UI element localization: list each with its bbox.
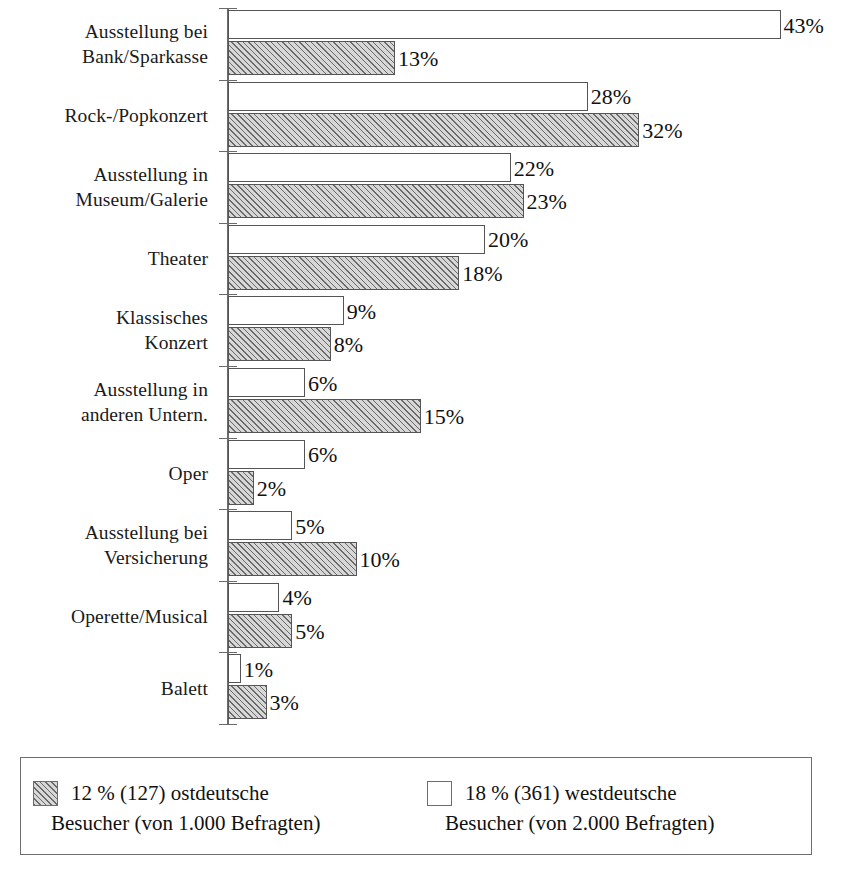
bar-value-label: 18%	[462, 263, 502, 285]
category-label-line: Ausstellung in	[0, 162, 208, 187]
bar-value-label: 32%	[642, 120, 682, 142]
category-row: Ausstellung beiBank/Sparkasse43%13%	[0, 8, 842, 80]
category-label-line: Operette/Musical	[0, 604, 208, 629]
bar-value-label: 23%	[527, 191, 567, 213]
bar-west-1: 43%	[228, 10, 781, 39]
legend-label-line1: 12 % (127) ostdeutsche	[71, 778, 269, 808]
bar-value-label: 13%	[398, 48, 438, 70]
bar-west-4: 20%	[228, 225, 485, 254]
bar-value-label: 9%	[347, 301, 376, 323]
bar-value-label: 10%	[360, 549, 400, 571]
bar-east-8: 10%	[228, 542, 357, 576]
bar-east-5: 8%	[228, 327, 331, 361]
bar-value-label: 8%	[334, 334, 363, 356]
category-row: Ausstellung inMuseum/Galerie22%23%	[0, 151, 842, 223]
white-swatch	[427, 781, 452, 806]
category-label-7: Oper	[0, 461, 208, 486]
category-row: Ausstellung inanderen Untern.6%15%	[0, 366, 842, 438]
bar-east-7: 2%	[228, 471, 254, 505]
axis-tick	[219, 724, 237, 725]
category-label-8: Ausstellung beiVersicherung	[0, 520, 208, 570]
category-label-line: Versicherung	[0, 545, 208, 570]
chart-page: Ausstellung beiBank/Sparkasse43%13%Rock-…	[0, 0, 842, 884]
category-label-10: Balett	[0, 676, 208, 701]
category-label-line: Ausstellung bei	[0, 520, 208, 545]
bar-west-9: 4%	[228, 583, 279, 612]
bar-value-label: 2%	[257, 478, 286, 500]
bar-west-3: 22%	[228, 153, 511, 182]
bar-value-label: 15%	[424, 406, 464, 428]
category-label-line: Konzert	[0, 330, 208, 355]
category-label-line: Theater	[0, 246, 208, 271]
bar-east-2: 32%	[228, 113, 639, 147]
bar-value-label: 28%	[591, 86, 631, 108]
bar-west-6: 6%	[228, 368, 305, 397]
category-label-9: Operette/Musical	[0, 604, 208, 629]
bar-east-4: 18%	[228, 256, 459, 290]
category-label-line: Ausstellung bei	[0, 19, 208, 44]
category-row: KlassischesKonzert9%8%	[0, 294, 842, 366]
category-row: Theater20%18%	[0, 223, 842, 295]
category-row: Operette/Musical4%5%	[0, 581, 842, 653]
bar-east-1: 13%	[228, 41, 395, 75]
bar-value-label: 22%	[514, 158, 554, 180]
legend-label-line1: 18 % (361) westdeutsche	[465, 778, 677, 808]
bar-east-6: 15%	[228, 399, 421, 433]
bar-value-label: 5%	[295, 516, 324, 538]
legend-label-line2: Besucher (von 2.000 Befragten)	[445, 808, 714, 838]
category-label-line: Ausstellung in	[0, 377, 208, 402]
bar-east-10: 3%	[228, 685, 267, 719]
category-label-6: Ausstellung inanderen Untern.	[0, 377, 208, 427]
bar-value-label: 3%	[270, 692, 299, 714]
category-row: Oper6%2%	[0, 438, 842, 510]
category-label-line: Balett	[0, 676, 208, 701]
category-label-5: KlassischesKonzert	[0, 305, 208, 355]
category-label-line: Museum/Galerie	[0, 187, 208, 212]
category-label-3: Ausstellung inMuseum/Galerie	[0, 162, 208, 212]
bar-east-9: 5%	[228, 614, 292, 648]
bar-west-10: 1%	[228, 654, 241, 683]
category-label-line: Bank/Sparkasse	[0, 44, 208, 69]
category-label-4: Theater	[0, 246, 208, 271]
bar-west-2: 28%	[228, 82, 588, 111]
bar-value-label: 43%	[784, 15, 824, 37]
category-label-2: Rock-/Popkonzert	[0, 103, 208, 128]
bar-east-3: 23%	[228, 184, 524, 218]
bar-value-label: 5%	[295, 621, 324, 643]
bar-value-label: 6%	[308, 444, 337, 466]
bar-value-label: 6%	[308, 373, 337, 395]
legend-label-line2: Besucher (von 1.000 Befragten)	[51, 808, 320, 838]
bar-value-label: 4%	[282, 587, 311, 609]
category-row: Balett1%3%	[0, 652, 842, 724]
bar-west-7: 6%	[228, 440, 305, 469]
category-label-line: Rock-/Popkonzert	[0, 103, 208, 128]
plot-area: Ausstellung beiBank/Sparkasse43%13%Rock-…	[0, 0, 842, 740]
bar-west-8: 5%	[228, 511, 292, 540]
hatched-swatch	[33, 781, 58, 806]
chart-legend: 12 % (127) ostdeutscheBesucher (von 1.00…	[20, 757, 812, 855]
category-row: Ausstellung beiVersicherung5%10%	[0, 509, 842, 581]
category-row: Rock-/Popkonzert28%32%	[0, 80, 842, 152]
bar-value-label: 20%	[488, 229, 528, 251]
bar-west-5: 9%	[228, 296, 344, 325]
category-label-line: anderen Untern.	[0, 402, 208, 427]
category-label-line: Klassisches	[0, 305, 208, 330]
category-label-line: Oper	[0, 461, 208, 486]
bar-value-label: 1%	[244, 659, 273, 681]
category-label-1: Ausstellung beiBank/Sparkasse	[0, 19, 208, 69]
